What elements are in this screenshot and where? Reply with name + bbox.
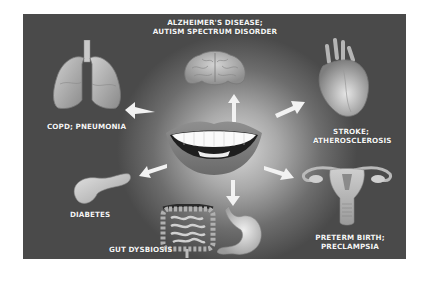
label-lungs: COPD; PNEUMONIA [47, 122, 126, 131]
label-heart-line1: STROKE; [313, 127, 389, 136]
label-gut: GUT DYSBIOSIS [109, 245, 173, 254]
label-pancreas: DIABETES [70, 210, 110, 219]
heart-icon [313, 38, 373, 120]
label-uterus-line2: PRECLAMPSIA [315, 242, 385, 251]
stomach-icon [217, 206, 263, 258]
lungs-icon [50, 40, 124, 110]
arrow-right-up-icon [275, 98, 305, 118]
label-uterus-line1: PRETERM BIRTH; [315, 233, 385, 242]
label-heart: STROKE; ATHEROSCLEROSIS [313, 127, 389, 145]
brain-icon [182, 50, 248, 88]
label-brain-line1: ALZHEIMER'S DISEASE; [135, 18, 295, 27]
label-heart-line2: ATHEROSCLEROSIS [313, 136, 389, 145]
label-brain: ALZHEIMER'S DISEASE; AUTISM SPECTRUM DIS… [135, 18, 295, 36]
arrow-down-right-icon [264, 164, 294, 182]
arrow-down-icon [226, 180, 240, 206]
arrow-left-icon [125, 102, 155, 120]
diagram-panel: ALZHEIMER'S DISEASE; AUTISM SPECTRUM DIS… [23, 14, 406, 259]
uterus-icon [300, 164, 394, 228]
pancreas-icon [71, 170, 133, 208]
arrow-down-left-icon [139, 164, 167, 180]
label-brain-line2: AUTISM SPECTRUM DISORDER [135, 27, 295, 36]
mouth-icon [164, 115, 264, 177]
label-uterus: PRETERM BIRTH; PRECLAMPSIA [315, 233, 385, 251]
